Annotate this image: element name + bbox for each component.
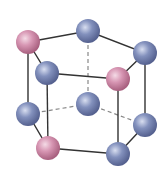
crystal-structure-diagram — [0, 0, 167, 182]
atom-bottom-front-right — [106, 142, 130, 166]
atoms — [16, 19, 157, 166]
atom-bottom-left — [16, 102, 40, 126]
atom-center-back — [76, 92, 100, 116]
atom-bottom-right — [133, 113, 157, 137]
atom-top-left — [16, 30, 40, 54]
atom-bottom-front-left — [36, 136, 60, 160]
atom-top-front-left — [35, 61, 59, 85]
atom-top-front-right — [106, 67, 130, 91]
atom-top-back — [76, 19, 100, 43]
atom-top-right — [133, 41, 157, 65]
